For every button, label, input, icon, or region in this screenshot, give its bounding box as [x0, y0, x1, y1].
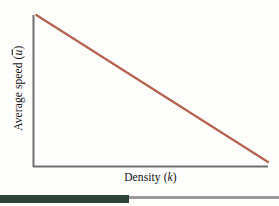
y-axis-label-prefix: Average speed (	[12, 55, 24, 130]
footer-accent-band	[0, 195, 129, 203]
x-axis-label-prefix: Density (	[124, 171, 167, 183]
figure-container: Average speed (u) Density (k)	[0, 0, 279, 206]
y-axis-label-suffix: )	[12, 46, 24, 50]
plot-area: Average speed (u) Density (k)	[0, 0, 279, 206]
x-axis-label-suffix: )	[173, 171, 177, 183]
y-axis-label-symbol: u	[12, 50, 25, 56]
x-axis-label: Density (k)	[33, 171, 268, 183]
y-axis-label: Average speed (u)	[12, 26, 25, 150]
speed-density-line	[36, 15, 268, 162]
